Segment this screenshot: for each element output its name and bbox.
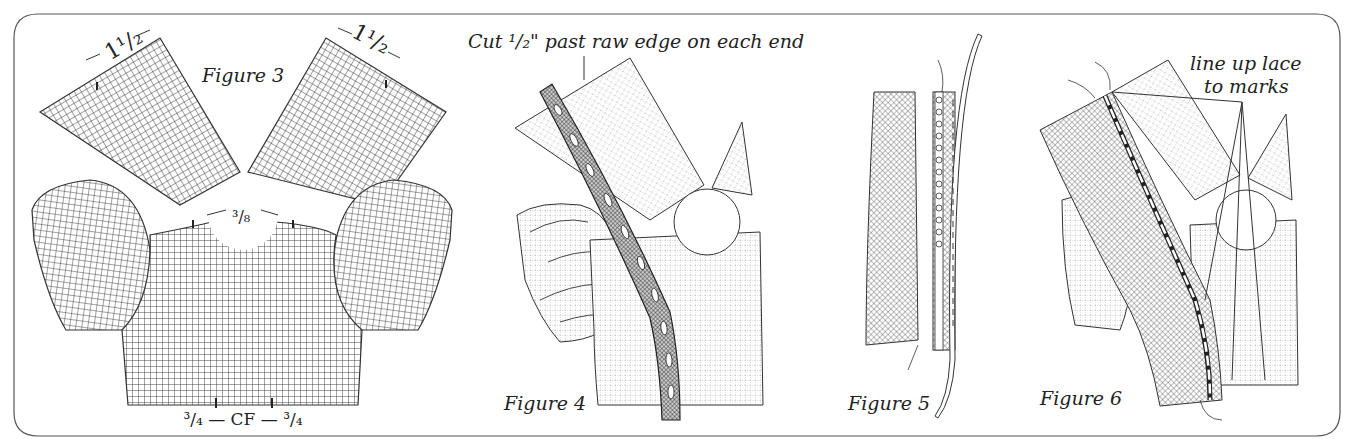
- figure-6-label: Figure 6: [1039, 387, 1122, 409]
- right-shoulder-measure: 1¹/₂: [348, 18, 394, 58]
- figure-3-panel: 1¹/₂ 1¹/₂ Figure 3 ³/₈ ³/₄ — CF — ³/₄: [32, 18, 452, 429]
- figure-5-label: Figure 5: [847, 392, 930, 414]
- neckline-hole: [674, 189, 740, 255]
- neckline-hole: [1216, 190, 1276, 250]
- left-sleeve: [32, 180, 150, 330]
- figure-4-label: Figure 4: [503, 392, 586, 414]
- figure-3-label: Figure 3: [201, 64, 284, 86]
- cut-instruction: Cut ¹/₂" past raw edge on each end: [468, 30, 804, 52]
- line-up-instruction-2: to marks: [1204, 75, 1289, 97]
- lace-edging: [866, 92, 918, 345]
- line-up-instruction-1: line up lace: [1190, 52, 1301, 74]
- right-sleeve: [334, 180, 452, 330]
- figure-6-panel: line up lace to marks Figure 6: [1039, 52, 1301, 420]
- figure-4-panel: Cut ¹/₂" past raw edge on each end Figur…: [468, 30, 804, 420]
- neckline-measure: ³/₈: [232, 207, 250, 226]
- pattern-illustration: 1¹/₂ 1¹/₂ Figure 3 ³/₈ ³/₄ — CF — ³/₄: [0, 0, 1354, 439]
- center-front-measure: ³/₄ — CF — ³/₄: [183, 409, 302, 429]
- figure-5-panel: Figure 5: [847, 34, 982, 418]
